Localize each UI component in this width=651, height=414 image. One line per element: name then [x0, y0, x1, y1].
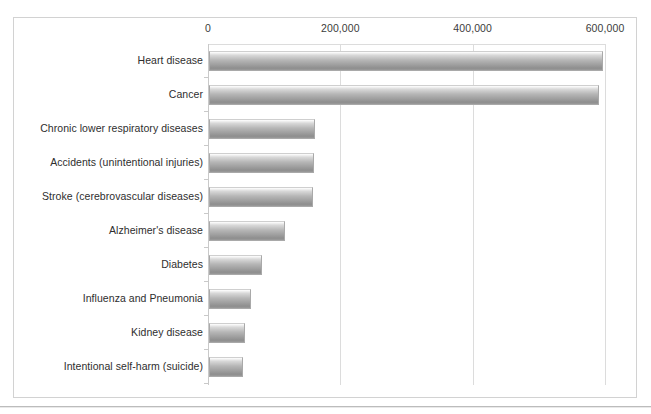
- bar[interactable]: [209, 221, 285, 241]
- chart-row: Cancer: [208, 78, 605, 112]
- plot-area: Heart diseaseCancerChronic lower respira…: [208, 44, 605, 384]
- chart-row: Chronic lower respiratory diseases: [208, 112, 605, 146]
- chart-row: Diabetes: [208, 248, 605, 282]
- bar[interactable]: [209, 51, 603, 71]
- bar-fill: [209, 357, 243, 377]
- x-axis-tick-label: 0: [205, 22, 211, 34]
- footer-rule: [0, 406, 651, 408]
- y-axis-tick: [204, 383, 208, 384]
- bar[interactable]: [209, 119, 315, 139]
- gridline: [605, 44, 606, 385]
- bar[interactable]: [209, 289, 251, 309]
- bar-fill: [209, 119, 315, 139]
- bar-fill: [209, 323, 245, 343]
- chart-row: Influenza and Pneumonia: [208, 282, 605, 316]
- bar[interactable]: [209, 85, 599, 105]
- category-label: Cancer: [14, 88, 203, 100]
- category-label: Diabetes: [14, 258, 203, 270]
- chart-row: Kidney disease: [208, 316, 605, 350]
- chart-row: Alzheimer's disease: [208, 214, 605, 248]
- bar[interactable]: [209, 153, 314, 173]
- category-label: Chronic lower respiratory diseases: [14, 122, 203, 134]
- x-axis-tick-label: 400,000: [453, 22, 492, 34]
- bar-fill: [209, 255, 262, 275]
- chart-row: Accidents (unintentional injuries): [208, 146, 605, 180]
- bar[interactable]: [209, 255, 262, 275]
- x-axis-tick-label: 200,000: [321, 22, 360, 34]
- bar[interactable]: [209, 323, 245, 343]
- x-axis-tick-label: 600,000: [586, 22, 625, 34]
- bar-fill: [209, 51, 603, 71]
- chart-row: Heart disease: [208, 44, 605, 78]
- category-label: Heart disease: [14, 54, 203, 66]
- category-label: Alzheimer's disease: [14, 224, 203, 236]
- chart-row: Intentional self-harm (suicide): [208, 350, 605, 384]
- bar[interactable]: [209, 187, 313, 207]
- bar-fill: [209, 153, 314, 173]
- chart-figure: 0200,000400,000600,000 Heart diseaseCanc…: [0, 0, 651, 414]
- chart-row: Stroke (cerebrovascular diseases): [208, 180, 605, 214]
- category-label: Kidney disease: [14, 326, 203, 338]
- bar-fill: [209, 289, 251, 309]
- bar-fill: [209, 221, 285, 241]
- category-label: Intentional self-harm (suicide): [14, 360, 203, 372]
- category-label: Accidents (unintentional injuries): [14, 156, 203, 168]
- category-label: Influenza and Pneumonia: [14, 292, 203, 304]
- bar[interactable]: [209, 357, 243, 377]
- bar-fill: [209, 85, 599, 105]
- category-label: Stroke (cerebrovascular diseases): [14, 190, 203, 202]
- bar-fill: [209, 187, 313, 207]
